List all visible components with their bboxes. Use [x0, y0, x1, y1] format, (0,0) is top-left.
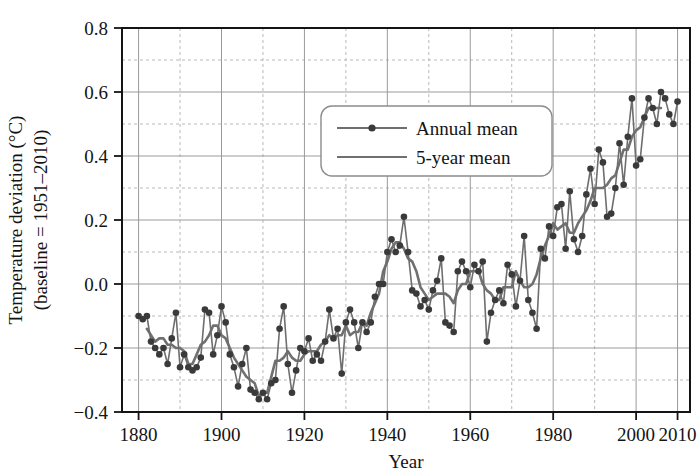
legend-marker-annual-mean [368, 124, 375, 131]
x-tick-label: 1900 [203, 424, 241, 445]
y-tick-label: 0.4 [84, 146, 108, 167]
y-axis-title-line1: Temperature deviation (°C) [5, 116, 27, 325]
temperature-anomaly-chart: 18801900192019401960198020002010 −0.4−0.… [0, 0, 699, 476]
x-tick-label: 1940 [368, 424, 406, 445]
legend-label-annual-mean: Annual mean [416, 118, 518, 139]
x-tick-label: 1920 [285, 424, 323, 445]
y-tick-label: 0.0 [84, 274, 108, 295]
y-axis-title-line2: (baseline = 1951–2010) [30, 130, 52, 311]
y-tick-label: 0.6 [84, 82, 108, 103]
x-tick-label: 1960 [451, 424, 489, 445]
x-axis-title: Year [388, 451, 424, 472]
y-tick-label: 0.8 [84, 18, 108, 39]
x-tick-label: 2000 [617, 424, 655, 445]
legend-label-5-year-mean: 5-year mean [416, 147, 511, 168]
chart-legend: Annual mean 5-year mean [321, 106, 552, 176]
y-tick-label: 0.2 [84, 210, 108, 231]
y-tick-label: −0.4 [74, 402, 109, 423]
x-tick-label: 1980 [534, 424, 572, 445]
y-tick-label: −0.2 [74, 338, 108, 359]
x-tick-label: 2010 [659, 424, 697, 445]
chart-figure: 18801900192019401960198020002010 −0.4−0.… [0, 0, 699, 476]
x-tick-label: 1880 [120, 424, 158, 445]
